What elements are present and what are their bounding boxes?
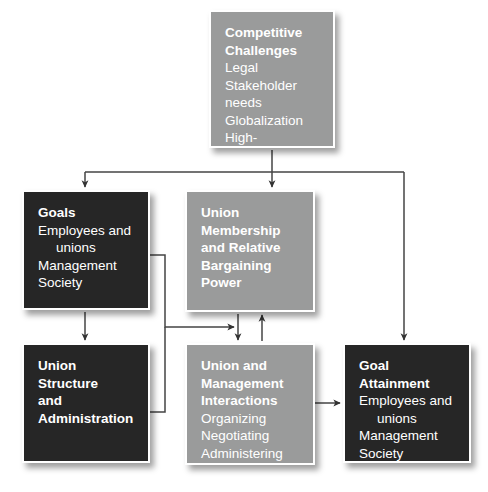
node-goal-attainment[interactable]: Goal Attainment Employees and unions Man… (343, 343, 471, 463)
node-item: High-performance (225, 129, 319, 148)
node-item: Employees and (359, 392, 455, 410)
node-title-line: Management (201, 375, 299, 393)
node-title-line: and Relative (201, 239, 299, 257)
node-item: Society (38, 274, 134, 292)
node-competitive-challenges[interactable]: Competitive Challenges Legal Stakeholder… (209, 10, 335, 148)
node-title-line: Union (201, 204, 299, 222)
node-item: Administering (201, 445, 299, 463)
node-item-continuation: unions (38, 239, 134, 257)
node-title-line: Membership (201, 222, 299, 240)
node-item: Negotiating (201, 427, 299, 445)
node-title-line: Goal Attainment (359, 357, 455, 392)
node-title-line: Union Structure (38, 357, 134, 392)
node-title-line: Goals (38, 204, 134, 222)
node-item: Management (38, 257, 134, 275)
connector-structure-to-interactions (150, 327, 165, 412)
node-title-line: Bargaining (201, 257, 299, 275)
node-title-line: Power (201, 274, 299, 292)
node-item: Society (359, 445, 455, 463)
node-title-line: Competitive (225, 24, 319, 42)
node-item: Globalization (225, 112, 319, 130)
diagram-canvas: Competitive Challenges Legal Stakeholder… (0, 0, 488, 492)
node-title-line: Administration (38, 410, 134, 428)
node-item: Organizing (201, 410, 299, 428)
node-union-structure[interactable]: Union Structure and Administration (22, 343, 150, 463)
node-title-line: and (38, 392, 134, 410)
node-goals[interactable]: Goals Employees and unions Management So… (22, 190, 150, 310)
node-title-line: Challenges (225, 42, 319, 60)
node-item: Legal (225, 59, 319, 77)
node-item: Management (359, 427, 455, 445)
node-item: Employees and (38, 222, 134, 240)
node-item: Stakeholder needs (225, 77, 319, 112)
node-item-continuation: unions (359, 410, 455, 428)
node-union-interactions[interactable]: Union and Management Interactions Organi… (185, 343, 315, 465)
node-title-line: Union and (201, 357, 299, 375)
node-title-line: Interactions (201, 392, 299, 410)
node-union-membership[interactable]: Union Membership and Relative Bargaining… (185, 190, 315, 312)
